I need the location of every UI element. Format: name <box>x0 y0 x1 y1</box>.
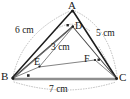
tick-mark-on-bc <box>27 74 30 77</box>
point-dot-c <box>115 77 118 80</box>
vertex-label-a: A <box>68 0 76 11</box>
geometry-figure: A B C D E F 6 cm 5 cm 3 cm 7 cm <box>0 0 130 99</box>
vertex-label-c: C <box>119 72 126 83</box>
segment-f-to-c <box>95 60 116 78</box>
point-dot-d <box>72 25 74 27</box>
tick-mark-near-f <box>98 59 100 61</box>
measure-label-de: 3 cm <box>51 43 70 53</box>
measure-label-ac: 5 cm <box>96 29 115 39</box>
measure-label-bc: 7 cm <box>49 85 68 95</box>
tick-mark-near-d <box>67 24 69 26</box>
vertex-label-b: B <box>1 71 8 82</box>
point-dot-b <box>12 77 15 80</box>
point-label-e: E <box>34 57 40 67</box>
measure-label-ab: 6 cm <box>15 26 34 36</box>
point-label-f: F <box>84 54 90 64</box>
point-dot-f <box>94 59 96 61</box>
point-label-d: D <box>75 21 82 31</box>
